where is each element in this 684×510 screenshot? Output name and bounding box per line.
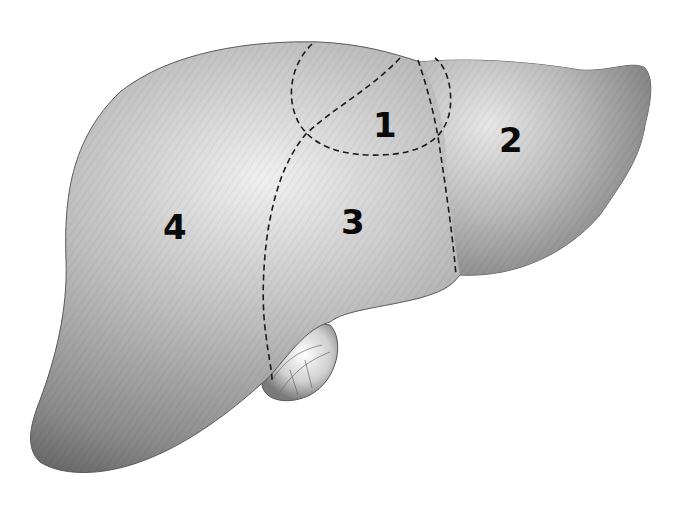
region-label-3: 3 bbox=[341, 202, 365, 242]
liver bbox=[31, 42, 651, 473]
region-label-2: 2 bbox=[499, 120, 523, 160]
region-label-1: 1 bbox=[373, 105, 397, 145]
liver-diagram: 1 2 3 4 bbox=[0, 0, 684, 510]
region-label-4: 4 bbox=[163, 207, 187, 247]
